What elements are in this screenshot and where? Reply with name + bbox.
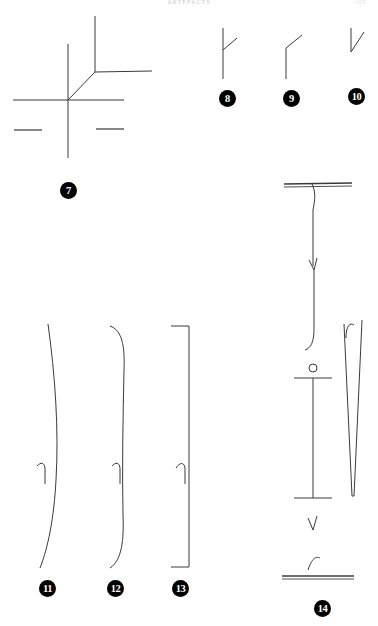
- figure-11-notch: [37, 463, 45, 484]
- figure-label-14: 14: [314, 600, 331, 617]
- figure-10-diagonal: [351, 32, 364, 52]
- figure-label-8: 8: [219, 90, 236, 107]
- figure-12-profile-curve: [110, 326, 124, 568]
- figure-9-bend: [286, 35, 302, 48]
- figure-label-7: 7: [60, 182, 77, 199]
- figure-12-drawing: [98, 322, 146, 572]
- figure-14-drawing: [280, 178, 378, 590]
- figure-13-notch: [176, 464, 185, 485]
- figure-10-drawing: [345, 26, 378, 76]
- figure-label-11: 11: [39, 580, 56, 597]
- figure-label-12: 12: [107, 580, 124, 597]
- figure-7-drawing: [0, 10, 190, 170]
- figure-14-stem-curl: [305, 328, 314, 350]
- figure-13-drawing: [162, 322, 210, 572]
- figure-14-upper-stem: [312, 184, 315, 266]
- figure-7-upper-arm: [95, 71, 152, 72]
- illustration-plate-page: ARTEFACTS 105 7 8: [0, 0, 378, 626]
- running-header-title: ARTEFACTS: [0, 0, 378, 5]
- figure-14-base-hook: [308, 557, 320, 570]
- figure-14-chevron: [308, 516, 317, 530]
- figure-7-diagonal-branch: [68, 72, 95, 100]
- figure-14-ring: [309, 364, 317, 372]
- figure-14-top-bar-underline: [284, 186, 352, 187]
- figure-14-wedge-left-edge: [344, 324, 352, 496]
- figure-label-10: 10: [348, 88, 365, 105]
- figure-11-drawing: [28, 322, 76, 572]
- figure-13-bracket-profile: [171, 326, 189, 567]
- figure-14-wedge-right-edge: [354, 320, 362, 496]
- figure-8-drawing: [214, 26, 254, 81]
- figure-14-wedge-hook: [346, 324, 354, 338]
- figure-14-top-bar: [284, 183, 352, 184]
- figure-12-notch: [112, 463, 120, 484]
- figure-9-drawing: [278, 26, 318, 81]
- page-folio-number: 105: [355, 0, 366, 5]
- figure-8-branch: [223, 38, 237, 50]
- figure-label-9: 9: [283, 90, 300, 107]
- figure-label-13: 13: [172, 580, 189, 597]
- figure-11-profile-curve: [40, 324, 57, 568]
